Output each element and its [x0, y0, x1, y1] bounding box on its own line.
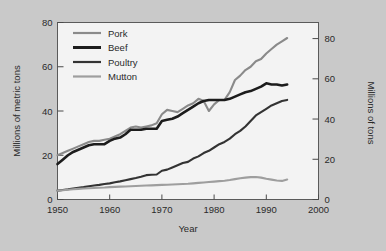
y-tick-label-right: 20 [325, 154, 336, 165]
y-axis-left-title: Millions of metric tons [11, 65, 22, 157]
meat-production-line-chart: 195019601970198019902000 020406080 02040… [0, 0, 386, 251]
y-tick-label-left: 40 [42, 106, 53, 117]
x-tick-label: 1980 [204, 204, 225, 215]
y-tick-label-right: 80 [325, 33, 336, 44]
legend-label-beef: Beef [108, 42, 128, 53]
y-tick-label-right: 0 [325, 194, 330, 205]
y-tick-label-right: 60 [325, 73, 336, 84]
y-tick-label-left: 20 [42, 150, 53, 161]
y-axis-right-title: Millions of tons [366, 82, 377, 145]
x-tick-label: 1990 [256, 204, 277, 215]
y-tick-label-right: 40 [325, 114, 336, 125]
x-tick-label: 1970 [151, 204, 172, 215]
legend-label-pork: Pork [108, 28, 128, 39]
y-tick-label-left: 60 [42, 61, 53, 72]
x-axis-title: Year [178, 223, 197, 234]
legend-label-mutton: Mutton [108, 71, 137, 82]
y-tick-label-left: 80 [42, 17, 53, 28]
legend-label-poultry: Poultry [108, 57, 138, 68]
x-tick-label: 1960 [99, 204, 120, 215]
x-tick-label: 2000 [308, 204, 329, 215]
x-tick-label: 1950 [47, 204, 68, 215]
y-tick-label-left: 0 [47, 194, 52, 205]
chart-figure: 195019601970198019902000 020406080 02040… [0, 0, 386, 251]
